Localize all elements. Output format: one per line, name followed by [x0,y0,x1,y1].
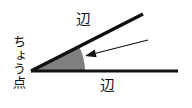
angle-diagram: 辺 辺 ちょう点 [0,0,192,108]
label-side-bottom: 辺 [100,79,115,94]
label-vertex: ちょう点 [10,35,25,89]
label-side-top: 辺 [76,13,91,28]
pointer-arrow-shaft [96,40,148,53]
pointer-arrow-head [85,49,97,57]
angle-figure-svg [0,0,192,108]
pointer-arrow [85,40,148,57]
